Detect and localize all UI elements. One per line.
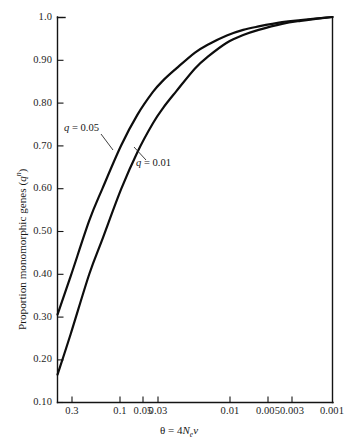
figure-container: 1.0 0.90 0.80 0.70 0.60 0.50 0.40 0.30 0… <box>0 0 358 447</box>
series-annotation-value: = 0.01 <box>141 157 171 168</box>
series-annotation-q-0-05: q = 0.05 <box>64 122 99 133</box>
y-tick-marks <box>58 18 64 403</box>
x-tick-label: 0.003 <box>272 405 312 416</box>
x-tick-label: 0.01 <box>210 405 250 416</box>
y-axis-title: Proportion monomorphic genes (qn) <box>14 169 28 330</box>
y-tick-label: 0.70 <box>18 140 52 151</box>
y-tick-label: 0.80 <box>18 97 52 108</box>
axes-group <box>58 17 334 403</box>
curve-q-0-05 <box>58 17 333 315</box>
x-tick-label: 0.001 <box>312 405 352 416</box>
y-tick-label: 0.10 <box>18 396 52 407</box>
x-axis-nu-symbol: ν <box>193 424 198 436</box>
x-axis-title: θ = 4Neν <box>0 424 358 439</box>
leader-line-q-0-05 <box>101 134 113 150</box>
y-axis-title-suffix: ) <box>16 169 28 173</box>
y-axis-title-var: q <box>16 176 28 182</box>
series-annotation-value: = 0.05 <box>69 122 99 133</box>
x-tick-label: 0.03 <box>138 405 178 416</box>
y-tick-label: 1.0 <box>18 11 52 22</box>
y-axis-title-prefix: Proportion monomorphic genes ( <box>16 182 28 330</box>
y-axis-title-exponent: n <box>14 172 23 176</box>
y-tick-label: 0.90 <box>18 54 52 65</box>
series-annotation-q-0-01: q = 0.01 <box>136 157 171 168</box>
x-tick-marks <box>72 397 292 403</box>
chart-canvas <box>0 0 358 447</box>
x-axis-equals: = 4 <box>165 424 182 436</box>
x-axis-n-symbol: N <box>182 424 189 436</box>
y-tick-label: 0.20 <box>18 353 52 364</box>
x-tick-label: 0.3 <box>52 405 92 416</box>
